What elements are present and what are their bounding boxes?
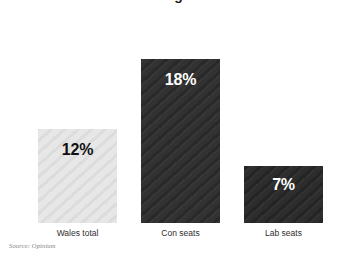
- plot-area: 12% Wales total 18% Con seats 7% Lab sea…: [0, 0, 344, 223]
- bar-value-wales-total: 12%: [38, 141, 117, 159]
- bar-lab-seats[interactable]: 7%: [244, 166, 323, 223]
- bar-wales-total[interactable]: 12%: [38, 129, 117, 223]
- bar-value-con-seats: 18%: [141, 71, 220, 89]
- chart-container: as English 12% Wales total 18% Con seats…: [0, 0, 344, 267]
- bar-value-lab-seats: 7%: [244, 176, 323, 194]
- bar-label-lab-seats: Lab seats: [232, 228, 335, 238]
- bar-group-wales-total: 12% Wales total: [38, 0, 117, 223]
- bar-label-wales-total: Wales total: [26, 228, 129, 238]
- bar-con-seats[interactable]: 18%: [141, 59, 220, 223]
- bar-label-con-seats: Con seats: [129, 228, 232, 238]
- bar-group-con-seats: 18% Con seats: [141, 0, 220, 223]
- source-note: Source: Opinium: [9, 242, 56, 249]
- bar-group-lab-seats: 7% Lab seats: [244, 0, 323, 223]
